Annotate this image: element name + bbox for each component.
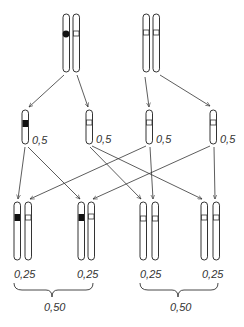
- open-band-marker: [153, 216, 159, 221]
- chromosome: [25, 202, 32, 260]
- arrow: [28, 147, 80, 199]
- chromosome: [213, 202, 220, 260]
- arrow: [29, 75, 64, 107]
- arrow: [93, 146, 210, 199]
- parent-2: [143, 14, 160, 72]
- arrow: [214, 147, 215, 199]
- group-right: 0,50: [140, 283, 218, 313]
- open-band-marker: [147, 120, 153, 125]
- black-dot-marker: [63, 31, 70, 38]
- offspring-4: 0,25: [201, 202, 224, 280]
- black-band-marker: [15, 214, 21, 221]
- black-band-marker: [23, 120, 29, 127]
- offspring-4-frequency: 0,25: [202, 268, 224, 280]
- chromosome: [143, 14, 150, 72]
- open-band-marker: [141, 216, 147, 221]
- group-left-sum: 0,50: [44, 301, 66, 313]
- genetic-cross-diagram: 0,5 0,5 0,5 0,5 0,25 0,25: [0, 0, 244, 327]
- chromosome: [140, 202, 147, 260]
- offspring-2: 0,25: [77, 202, 99, 280]
- gamete-3-frequency: 0,5: [156, 133, 172, 145]
- arrow: [30, 146, 146, 199]
- arrows-fertilization: [18, 146, 215, 199]
- open-band-marker: [211, 120, 217, 125]
- brace: [14, 283, 93, 297]
- gamete-4-frequency: 0,5: [220, 133, 236, 145]
- open-band-marker: [74, 31, 80, 36]
- group-left: 0,50: [14, 283, 93, 313]
- gamete-2-frequency: 0,5: [96, 133, 112, 145]
- open-band-marker: [89, 214, 95, 219]
- open-band-marker: [202, 215, 208, 220]
- offspring-2-frequency: 0,25: [77, 268, 99, 280]
- open-band-marker: [154, 30, 160, 35]
- offspring-3: 0,25: [140, 202, 162, 280]
- open-band-marker: [214, 215, 220, 220]
- arrow: [92, 146, 202, 199]
- chromosome: [201, 202, 208, 260]
- offspring-1-frequency: 0,25: [14, 268, 36, 280]
- chromosome: [146, 110, 153, 144]
- arrows-meiosis: [29, 75, 210, 107]
- offspring-1: 0,25: [14, 202, 36, 280]
- gamete-3: 0,5: [146, 110, 172, 145]
- chromosome: [152, 202, 159, 260]
- arrow: [90, 147, 141, 199]
- chromosome: [88, 202, 95, 260]
- arrow: [145, 77, 149, 107]
- chromosome: [86, 110, 93, 144]
- brace: [140, 283, 218, 297]
- arrow: [18, 147, 25, 199]
- arrow: [160, 75, 210, 106]
- chromosome: [210, 110, 217, 144]
- gamete-1-frequency: 0,5: [32, 134, 48, 146]
- chromosome: [63, 14, 70, 72]
- chromosome: [78, 202, 85, 260]
- arrow: [77, 75, 88, 107]
- group-right-sum: 0,50: [170, 301, 192, 313]
- parent-1: [63, 14, 80, 72]
- chromosome: [73, 14, 80, 72]
- offspring-3-frequency: 0,25: [140, 268, 162, 280]
- chromosome: [14, 202, 21, 260]
- open-band-marker: [144, 30, 150, 35]
- open-band-marker: [87, 120, 93, 125]
- open-band-marker: [26, 215, 32, 220]
- black-band-marker: [79, 214, 85, 221]
- chromosome: [153, 14, 160, 72]
- gamete-1: 0,5: [22, 110, 48, 146]
- gamete-2: 0,5: [86, 110, 112, 145]
- gamete-4: 0,5: [210, 110, 236, 145]
